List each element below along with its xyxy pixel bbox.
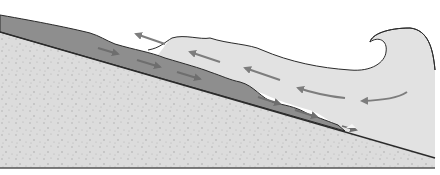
diagram-canvas: [0, 0, 440, 175]
water-arrow-1: [136, 34, 165, 44]
beach-wave-diagram: [0, 0, 440, 175]
